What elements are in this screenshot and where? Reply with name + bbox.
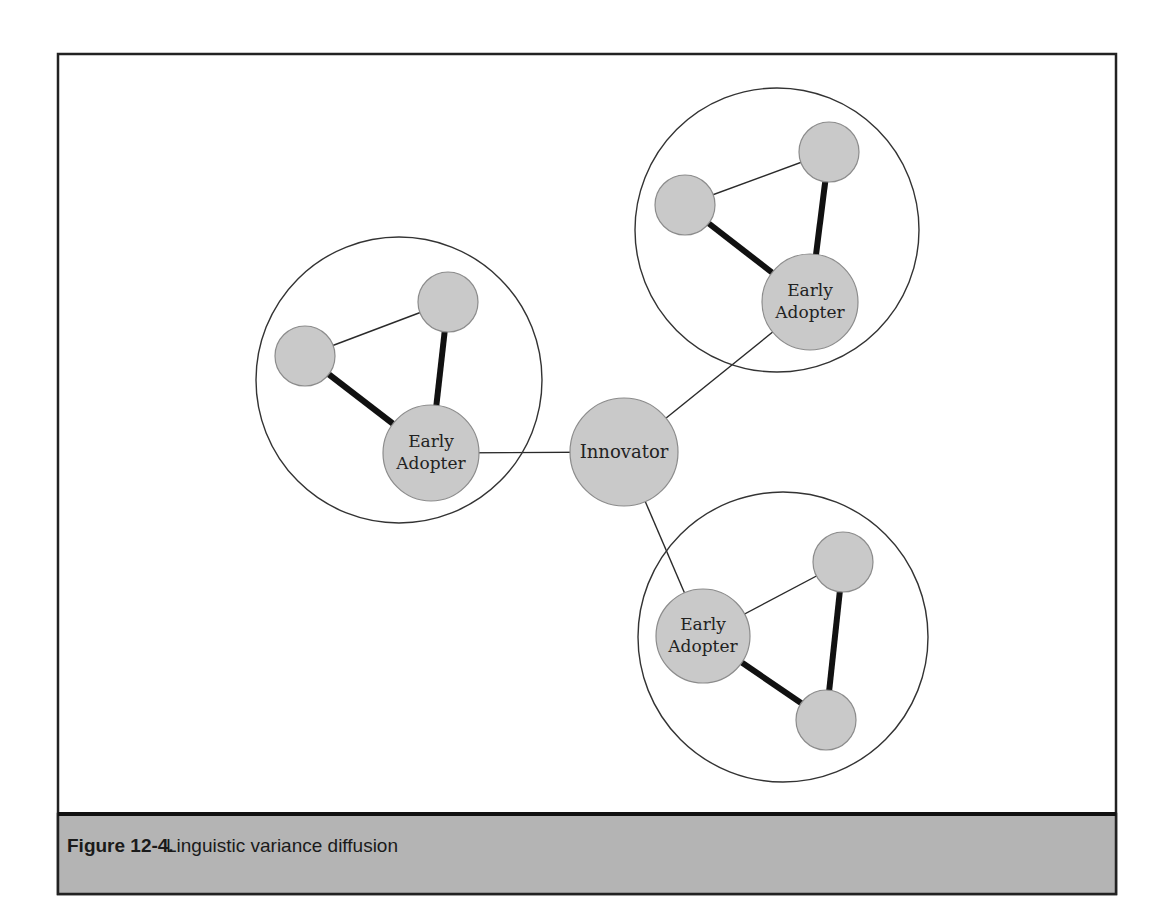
member-node <box>655 175 715 235</box>
early-adopter-label-line1: Early <box>787 280 833 300</box>
member-node <box>275 326 335 386</box>
innovator: Innovator <box>570 398 678 506</box>
early-adopter-label-line1: Early <box>680 614 726 634</box>
member-node <box>813 532 873 592</box>
figure: Figure 12-4. Linguistic variance diffusi… <box>0 0 1173 912</box>
innovator-label: Innovator <box>580 441 669 462</box>
early-adopter-label-line2: Adopter <box>667 636 738 656</box>
member-node <box>799 122 859 182</box>
figure-title: Linguistic variance diffusion <box>166 835 398 856</box>
early-adopter-label-line2: Adopter <box>395 453 466 473</box>
early-adopter-label-line1: Early <box>408 431 454 451</box>
figure-number: Figure 12-4. <box>67 835 174 856</box>
member-node <box>796 690 856 750</box>
member-node <box>418 272 478 332</box>
early-adopter-label-line2: Adopter <box>774 302 845 322</box>
